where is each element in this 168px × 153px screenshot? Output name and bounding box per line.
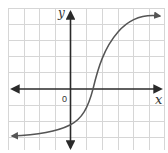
grid	[8, 8, 165, 150]
function-graph: y x 0	[0, 0, 168, 153]
y-axis-label: y	[57, 6, 65, 20]
origin-label: 0	[62, 94, 67, 104]
x-axis-label: x	[155, 92, 163, 107]
